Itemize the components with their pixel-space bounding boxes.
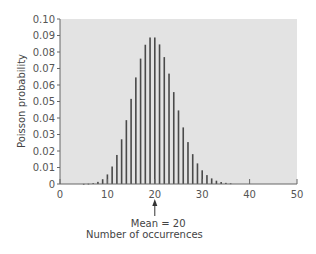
arrow-head-icon — [152, 199, 157, 206]
bar — [126, 120, 128, 184]
bar — [111, 167, 113, 184]
x-tick-label: 30 — [196, 189, 209, 200]
bar — [211, 178, 213, 184]
bar — [163, 57, 165, 184]
bar — [121, 139, 123, 184]
y-tick-label: 0.09 — [33, 30, 55, 41]
y-tick-label: 0.02 — [33, 146, 55, 157]
bar — [145, 45, 147, 184]
bar — [187, 142, 189, 184]
bar — [102, 179, 104, 184]
y-tick-label: 0.03 — [33, 129, 55, 140]
x-tick-label: 40 — [243, 189, 256, 200]
bar — [197, 163, 199, 184]
mean-annotation: Mean = 20 — [131, 199, 186, 229]
bar — [182, 127, 184, 184]
y-tick-label: 0.06 — [33, 80, 55, 91]
y-tick-label: 0.05 — [33, 96, 55, 107]
poisson-chart: 00.010.020.030.040.050.060.070.080.090.1… — [0, 0, 316, 254]
bar — [149, 37, 151, 184]
mean-label: Mean = 20 — [131, 218, 186, 229]
bar — [206, 175, 208, 184]
x-tick-label: 10 — [101, 189, 114, 200]
x-axis-title: Number of occurrences — [86, 229, 203, 240]
y-tick-label: 0.07 — [33, 63, 55, 74]
y-tick-label: 0.08 — [33, 47, 55, 58]
bar — [178, 110, 180, 184]
x-tick-label: 50 — [291, 189, 304, 200]
bar — [192, 154, 194, 184]
bar — [140, 59, 142, 184]
bar — [154, 37, 156, 184]
bar — [116, 155, 118, 184]
y-axis-title: Poisson probability — [16, 54, 27, 148]
y-tick-label: 0 — [49, 179, 55, 190]
bar — [130, 99, 132, 184]
y-axis-ticks: 00.010.020.030.040.050.060.070.080.090.1… — [33, 14, 60, 190]
y-tick-label: 0.01 — [33, 162, 55, 173]
y-tick-label: 0.04 — [33, 113, 55, 124]
x-tick-label: 0 — [57, 189, 63, 200]
y-tick-label: 0.10 — [33, 14, 55, 25]
bar — [173, 92, 175, 184]
x-tick-label: 20 — [148, 189, 161, 200]
bar — [168, 74, 170, 184]
bar — [159, 44, 161, 184]
bar — [135, 77, 137, 184]
